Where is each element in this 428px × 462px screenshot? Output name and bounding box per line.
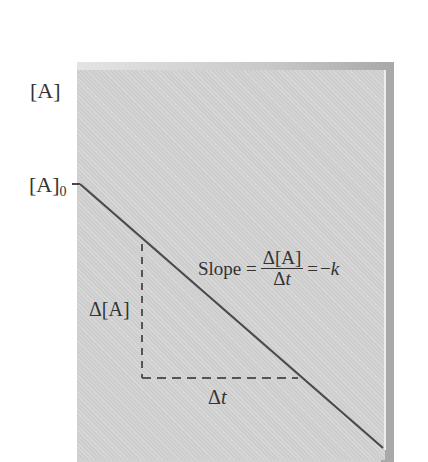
slope-denominator-var: t [286, 268, 291, 289]
slope-equation-sign: − [320, 258, 331, 280]
delta-concentration-label: Δ[A] [89, 298, 130, 321]
slope-equation-lhs: Slope = [198, 258, 257, 280]
delta-time-label: Δt [208, 386, 226, 409]
delta-time-delta: Δ [208, 386, 221, 408]
slope-numerator: Δ[A] [261, 248, 304, 269]
slope-fraction: Δ[A] Δt [261, 248, 304, 290]
delta-time-var: t [221, 386, 227, 408]
slope-equation-equals: = [307, 258, 318, 280]
slope-denominator: Δt [273, 269, 291, 290]
slope-denominator-delta: Δ [273, 268, 285, 289]
rate-constant: k [331, 258, 339, 280]
slope-equation: Slope = Δ[A] Δt = − k [198, 248, 339, 290]
